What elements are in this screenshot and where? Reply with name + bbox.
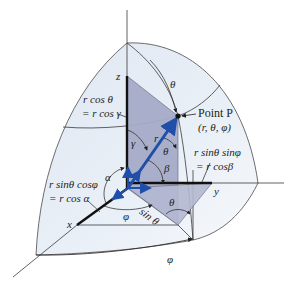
diagram-svg: [0, 0, 296, 289]
point-p-dot: [175, 113, 180, 118]
point-p-label: Point P: [198, 107, 233, 119]
y-axis-label: y: [214, 185, 219, 197]
phi-inner-label: φ: [123, 210, 129, 222]
r-label: r: [154, 132, 158, 144]
y-component-line2: = r cosβ: [196, 160, 233, 172]
z-component-line2: = r cos γ: [82, 107, 121, 119]
theta-top-label: θ: [170, 78, 175, 90]
x-axis-label: x: [67, 218, 72, 230]
beta-label: β: [164, 162, 169, 174]
point-p-coords: (r, θ, φ): [198, 121, 231, 133]
z-axis-label: z: [116, 70, 120, 82]
y-component-line1: r sinθ sinφ: [194, 146, 241, 158]
theta-bottom-label: θ: [169, 196, 174, 208]
spherical-coordinates-diagram: z y x z x y r Point P (r, θ, φ) r cos θ …: [0, 0, 296, 289]
theta-near-r-label: θ: [163, 145, 168, 157]
phi-outer-label: φ: [167, 253, 173, 265]
z-component-line1: r cos θ: [83, 93, 113, 105]
gamma-label: γ: [131, 137, 135, 149]
x-component-line2: = r cos α: [49, 192, 89, 204]
x-component-line1: r sinθ cosφ: [49, 178, 98, 190]
alpha-label: α: [105, 171, 111, 183]
